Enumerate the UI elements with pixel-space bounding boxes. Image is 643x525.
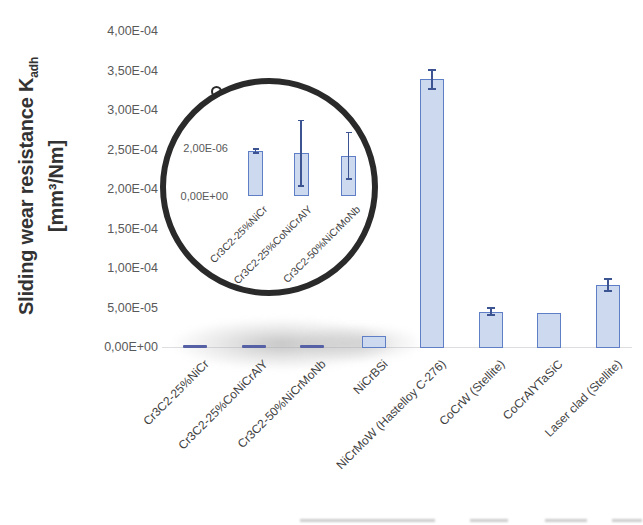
bar-8 [596, 285, 620, 348]
error-bar-bottom-cap [487, 314, 495, 316]
y-tick-label: 2,50E-04 [60, 143, 158, 158]
wear-resistance-bar-chart: Sliding wear resistance Kadh[mm³/Nm] 0,0… [0, 0, 643, 525]
bar-2 [242, 345, 266, 348]
y-tick-label: 1,50E-04 [60, 222, 158, 237]
error-bar-bottom-cap [346, 178, 352, 180]
cropped-caption-artifact [545, 519, 587, 522]
cropped-caption-artifact [300, 519, 435, 522]
bar-6 [479, 312, 503, 348]
cropped-caption-artifact [470, 519, 508, 522]
error-bar-top-cap [253, 148, 259, 150]
y-tick-label: 5,00E-05 [60, 301, 158, 316]
error-bar [346, 132, 352, 180]
error-bar-line [431, 69, 433, 90]
error-bar-top-cap [428, 69, 436, 71]
y-tick-label: 3,00E-04 [60, 103, 158, 118]
x-category-label-text: Cr3C2-25%CoNiCrAlY [231, 203, 314, 286]
error-bar-line [300, 120, 302, 187]
error-bar-bottom-cap [428, 88, 436, 90]
error-bar-bottom-cap [604, 290, 612, 292]
magnifier-inset-circle: 0,00E+002,00E-06Cr3C2-25%NiCrCr3C2-25%Co… [160, 78, 378, 296]
y-tick-label: 3,50E-04 [60, 64, 158, 79]
x-category-label-text: CoCrAlYTaSiC [500, 357, 566, 423]
bar-5 [420, 79, 444, 348]
inset-plot-area: 0,00E+002,00E-06Cr3C2-25%NiCrCr3C2-25%Co… [160, 78, 378, 296]
error-bar [253, 148, 259, 154]
bar-1 [183, 345, 207, 348]
error-bar [298, 120, 304, 187]
bar-7 [537, 313, 561, 348]
error-bar-line [348, 132, 350, 180]
inset-y-tick-label: 0,00E+00 [160, 190, 228, 203]
y-tick-label: 2,00E-04 [60, 182, 158, 197]
error-bar [428, 69, 436, 90]
y-axis-title: Sliding wear resistance Kadh[mm³/Nm] [15, 16, 59, 356]
inset-bar-1 [248, 151, 263, 197]
error-bar-bottom-cap [298, 185, 304, 187]
y-tick-label: 1,00E-04 [60, 261, 158, 276]
y-tick-label: 0,00E+00 [60, 340, 158, 355]
error-bar [487, 307, 495, 316]
x-category-label-text: NiCrMoW (Hastelloy C-276) [333, 357, 448, 472]
error-bar [604, 278, 612, 292]
error-bar-top-cap [298, 120, 304, 122]
baseline-axis-line [162, 347, 632, 348]
error-bar-bottom-cap [253, 152, 259, 154]
cropped-caption-artifact [612, 519, 642, 522]
y-axis-title-text: Sliding wear resistance K [15, 78, 37, 315]
inset-y-tick-label: 2,00E-06 [160, 142, 228, 155]
bar-4 [362, 336, 386, 348]
error-bar-top-cap [487, 307, 495, 309]
error-bar-top-cap [346, 132, 352, 134]
bar-3 [300, 345, 324, 348]
y-tick-label: 4,00E-04 [60, 24, 158, 39]
scan-smudge-artifact [298, 324, 423, 362]
pen-loop-artifact [211, 86, 222, 97]
y-axis-title-subscript: adh [27, 57, 41, 78]
error-bar-top-cap [604, 278, 612, 280]
